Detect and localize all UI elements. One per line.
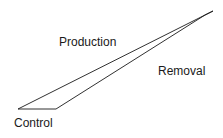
removal-label: Removal [158,65,205,77]
production-label: Production [59,36,116,48]
control-label: Control [14,117,53,129]
wedge-diagram: Production Removal Control [0,0,223,138]
wedge-outline [18,11,213,109]
